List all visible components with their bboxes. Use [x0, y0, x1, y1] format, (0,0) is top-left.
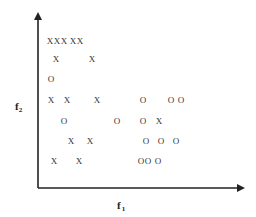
- class-x-marker: X: [61, 36, 68, 46]
- class-o-marker: O: [158, 136, 165, 146]
- class-o-marker: O: [138, 156, 145, 166]
- class-o-marker: O: [173, 136, 180, 146]
- class-x-marker: X: [89, 54, 96, 64]
- x-axis-label-letter: f: [117, 199, 121, 211]
- class-o-marker: O: [140, 116, 147, 126]
- class-x-marker: X: [64, 95, 71, 105]
- class-o-marker: O: [155, 156, 162, 166]
- y-axis-label: f2: [15, 100, 23, 114]
- y-axis-label-subscript: 2: [19, 106, 23, 114]
- class-x-marker: X: [54, 36, 61, 46]
- class-o-marker: O: [168, 95, 175, 105]
- class-x-marker: X: [87, 136, 94, 146]
- class-o-marker: O: [114, 116, 121, 126]
- class-x-marker: X: [70, 36, 77, 46]
- class-x-marker: X: [48, 95, 55, 105]
- scatter-diagram: f2 f1 XXXXXXXOXXXOOOOOOXXXOOOXXOOO: [0, 0, 256, 217]
- x-axis-label-subscript: 1: [122, 205, 126, 213]
- class-o-marker: O: [61, 116, 68, 126]
- class-x-marker: X: [156, 116, 163, 126]
- class-x-marker: X: [51, 156, 58, 166]
- class-o-marker: O: [48, 74, 55, 84]
- class-x-marker: X: [77, 36, 84, 46]
- class-x-marker: X: [47, 36, 54, 46]
- class-o-marker: O: [143, 136, 150, 146]
- class-o-marker: O: [178, 95, 185, 105]
- class-x-marker: X: [68, 136, 75, 146]
- class-x-marker: X: [94, 95, 101, 105]
- data-markers: XXXXXXXOXXXOOOOOOXXXOOOXXOOO: [47, 36, 185, 166]
- class-o-marker: O: [145, 156, 152, 166]
- class-x-marker: X: [76, 156, 83, 166]
- class-x-marker: X: [53, 54, 60, 64]
- class-o-marker: O: [140, 95, 147, 105]
- x-axis-label: f1: [117, 199, 126, 213]
